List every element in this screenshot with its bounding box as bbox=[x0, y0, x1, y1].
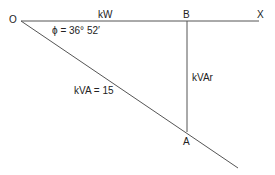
phase-angle-label: ϕ = 36° 52′ bbox=[52, 26, 100, 36]
point-b-label: B bbox=[183, 10, 190, 20]
kva-hypotenuse-line bbox=[21, 21, 238, 168]
kvar-label: kVAr bbox=[192, 73, 213, 83]
point-a-label: A bbox=[183, 137, 190, 147]
kw-label: kW bbox=[98, 10, 112, 20]
power-triangle-drawing bbox=[0, 0, 275, 175]
point-x-label: X bbox=[257, 10, 264, 20]
point-o-label: O bbox=[9, 15, 17, 25]
kva-label: kVA = 15 bbox=[74, 86, 114, 96]
